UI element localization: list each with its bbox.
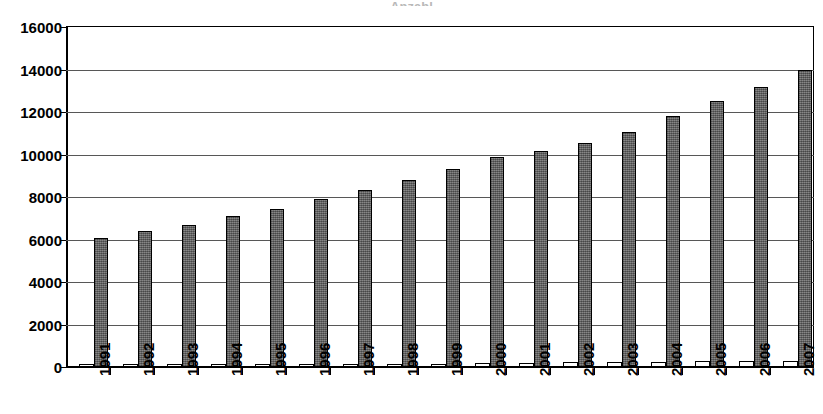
x-axis-tick-label: 2000	[492, 343, 509, 376]
bar-secondary	[783, 361, 798, 367]
x-axis-tick-label: 2001	[536, 343, 553, 376]
y-axis-tick-mark	[60, 27, 66, 28]
gridline	[66, 70, 814, 71]
y-axis-tick-label: 8000	[0, 189, 62, 206]
y-axis-tick-label: 2000	[0, 316, 62, 333]
x-axis-tick-label: 2003	[624, 343, 641, 376]
bar-secondary	[255, 364, 270, 367]
y-axis-tick-mark	[60, 367, 66, 368]
x-axis-tick-label: 1991	[96, 343, 113, 376]
bar-secondary	[167, 364, 182, 367]
x-axis-tick-label: 1994	[228, 343, 245, 376]
bar-primary	[490, 157, 504, 367]
x-axis-tick-label: 1997	[360, 343, 377, 376]
gridline	[66, 197, 814, 198]
x-axis-tick-label: 1992	[140, 343, 157, 376]
x-axis-tick-label: 1996	[316, 343, 333, 376]
y-axis-tick-label: 12000	[0, 104, 62, 121]
bar-primary	[798, 70, 812, 368]
plot-area	[66, 27, 814, 367]
y-axis-tick-mark	[60, 282, 66, 283]
x-axis-tick-label: 1995	[272, 343, 289, 376]
y-axis-tick-label: 0	[0, 359, 62, 376]
bar-primary	[754, 87, 768, 368]
bar-primary	[358, 190, 372, 367]
x-axis-tick-label: 2002	[580, 343, 597, 376]
gridline	[66, 282, 814, 283]
y-axis-tick-label: 6000	[0, 231, 62, 248]
bar-secondary	[343, 364, 358, 367]
bar-primary	[534, 151, 548, 367]
y-axis-tick-label: 16000	[0, 19, 62, 36]
y-axis-tick-mark	[60, 240, 66, 241]
plot-top-border	[66, 26, 814, 27]
bar-secondary	[79, 364, 94, 367]
bar-secondary	[299, 364, 314, 367]
y-axis-tick-label: 14000	[0, 61, 62, 78]
bar-secondary	[651, 362, 666, 367]
bar-secondary	[211, 364, 226, 367]
x-axis-tick-label: 2006	[756, 343, 773, 376]
gridline	[66, 112, 814, 113]
bar-secondary	[563, 362, 578, 367]
bar-primary	[622, 132, 636, 367]
y-axis-tick-mark	[60, 197, 66, 198]
bar-secondary	[739, 361, 754, 367]
bar-secondary	[475, 363, 490, 367]
bar-primary	[446, 169, 460, 367]
y-axis-tick-label: 4000	[0, 274, 62, 291]
bar-primary	[666, 116, 680, 367]
bar-primary	[578, 143, 592, 367]
bar-secondary	[607, 362, 622, 367]
y-axis-tick-mark	[60, 155, 66, 156]
y-axis-labels: 1600014000120001000080006000400020000	[0, 0, 62, 414]
bar-secondary	[387, 364, 402, 367]
x-axis-tick-label: 2007	[800, 343, 817, 376]
bar-secondary	[695, 361, 710, 367]
x-axis-tick-label: 2005	[712, 343, 729, 376]
x-axis-tick-label: 1999	[448, 343, 465, 376]
bar-chart: Anzahl 160001400012000100008000600040002…	[0, 0, 823, 414]
chart-title-clipped: Anzahl	[0, 0, 823, 6]
gridline	[66, 155, 814, 156]
y-axis-tick-mark	[60, 112, 66, 113]
y-axis-tick-mark	[60, 70, 66, 71]
bar-primary	[402, 180, 416, 367]
bar-secondary	[519, 363, 534, 367]
y-axis-tick-label: 10000	[0, 146, 62, 163]
gridline	[66, 325, 814, 326]
x-axis-tick-label: 1993	[184, 343, 201, 376]
bar-primary	[710, 101, 724, 367]
gridline	[66, 240, 814, 241]
x-axis-tick-label: 1998	[404, 343, 421, 376]
x-axis-tick-label: 2004	[668, 343, 685, 376]
y-axis-tick-mark	[60, 325, 66, 326]
bar-secondary	[123, 364, 138, 367]
bar-secondary	[431, 364, 446, 367]
